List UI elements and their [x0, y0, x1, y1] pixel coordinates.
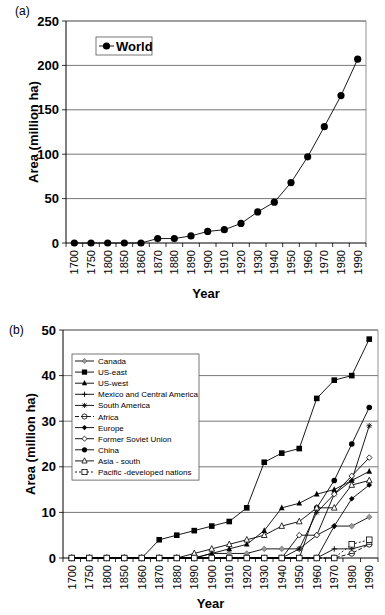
asterisk-marker	[82, 403, 87, 408]
open-square-marker	[366, 537, 372, 543]
y-axis-title: Area (million ha)	[26, 81, 41, 183]
open-square-marker	[139, 555, 145, 561]
filled-circle-marker	[337, 92, 344, 99]
x-tick-label: 1890	[188, 565, 200, 589]
open-square-marker	[191, 555, 197, 561]
series-asia-south	[69, 477, 372, 560]
x-tick-label: 1980	[346, 565, 358, 589]
y-tick-label: 10	[42, 505, 56, 520]
series-line	[72, 471, 370, 558]
filled-circle-marker	[237, 220, 244, 227]
x-tick-label: 1700	[68, 250, 80, 274]
y-tick-label: 50	[42, 323, 56, 338]
x-tick-label: 1850	[118, 565, 130, 589]
filled-circle-marker	[321, 123, 328, 130]
legend-label: US-west	[98, 379, 129, 388]
x-tick-label: 1880	[168, 250, 180, 274]
open-square-marker	[69, 555, 75, 561]
chart-panel-b: 0102030405017001750180018501860187018801…	[9, 323, 378, 612]
x-tick-label: 1960	[302, 250, 314, 274]
x-tick-label: 1970	[318, 250, 330, 274]
series-line	[72, 540, 370, 558]
y-tick-label: 20	[42, 459, 56, 474]
gray-diamond-marker	[366, 514, 372, 520]
x-tick-label: 1700	[66, 565, 78, 589]
panel-label: (a)	[15, 4, 30, 18]
x-tick-label: 1920	[241, 565, 253, 589]
x-tick-label: 1960	[311, 565, 323, 589]
legend-label: China	[98, 446, 119, 455]
filled-square-marker	[349, 373, 355, 379]
filled-square-marker	[366, 336, 372, 342]
y-tick-label: 0	[52, 236, 59, 251]
x-tick-label: 1930	[258, 565, 270, 589]
filled-square-marker	[331, 377, 337, 383]
filled-circle-marker	[254, 208, 261, 215]
series-line	[72, 517, 370, 558]
legend-label: Pacific -developed nations	[98, 468, 191, 477]
x-tick-label: 1910	[218, 250, 230, 274]
asterisk-marker	[296, 546, 302, 552]
filled-square-marker	[261, 459, 267, 465]
gray-diamond-marker	[349, 523, 355, 529]
x-tick-label: 1950	[285, 250, 297, 274]
x-axis-title: Year	[192, 286, 219, 301]
filled-circle-marker	[271, 199, 278, 206]
open-square-marker	[261, 555, 267, 561]
filled-circle-marker	[287, 179, 294, 186]
chart-panel-a: 0501001502002501700175018001850186018701…	[15, 4, 366, 301]
filled-circle-marker	[82, 447, 87, 452]
figure: 0501001502002501700175018001850186018701…	[0, 0, 385, 615]
filled-circle-marker	[204, 228, 211, 235]
legend: CanadaUS-eastUS-westMexico and Central A…	[72, 354, 199, 480]
x-tick-label: 1980	[335, 250, 347, 274]
filled-circle-marker	[187, 232, 194, 239]
filled-square-marker	[244, 505, 250, 511]
filled-square-marker	[191, 528, 197, 534]
open-square-marker	[86, 555, 92, 561]
filled-circle-marker	[304, 153, 311, 160]
open-square-marker	[156, 555, 162, 561]
x-tick-label: 1750	[85, 250, 97, 274]
filled-square-marker	[279, 450, 285, 456]
filled-circle-marker	[71, 239, 78, 246]
filled-circle-marker	[104, 239, 111, 246]
panel-label: (b)	[9, 323, 24, 337]
filled-square-marker	[156, 537, 162, 543]
y-tick-label: 30	[42, 414, 56, 429]
legend-label: World	[116, 39, 153, 54]
x-tick-label: 1870	[153, 565, 165, 589]
filled-square-marker	[174, 532, 180, 538]
y-tick-label: 40	[42, 368, 56, 383]
open-triangle-marker	[296, 518, 302, 524]
x-tick-label: 1860	[135, 250, 147, 274]
x-tick-label: 1900	[202, 250, 214, 274]
filled-circle-marker	[221, 226, 228, 233]
series-europe	[69, 482, 372, 561]
x-tick-label: 1850	[118, 250, 130, 274]
y-tick-label: 0	[49, 551, 56, 566]
open-square-marker	[331, 555, 337, 561]
x-tick-label: 1860	[136, 565, 148, 589]
x-tick-label: 1990	[352, 250, 364, 274]
filled-circle-marker	[103, 42, 110, 49]
filled-square-marker	[296, 446, 302, 452]
legend-label: South America	[98, 401, 151, 410]
legend-label: Asia - south	[98, 457, 140, 466]
open-square-marker	[226, 555, 232, 561]
filled-circle-marker	[171, 235, 178, 242]
x-tick-label: 1940	[268, 250, 280, 274]
series-world	[71, 56, 362, 247]
open-square-marker	[174, 555, 180, 561]
x-tick-label: 1800	[102, 250, 114, 274]
legend-label: Former Soviet Union	[98, 435, 171, 444]
plus-marker	[331, 546, 337, 552]
x-tick-label: 1880	[171, 565, 183, 589]
filled-circle-marker	[121, 239, 128, 246]
y-tick-label: 250	[37, 14, 59, 29]
x-tick-label: 1990	[363, 565, 375, 589]
x-tick-label: 1930	[252, 250, 264, 274]
legend-label: Africa	[98, 413, 119, 422]
filled-triangle-marker	[366, 468, 372, 474]
filled-diamond-marker	[331, 523, 337, 529]
